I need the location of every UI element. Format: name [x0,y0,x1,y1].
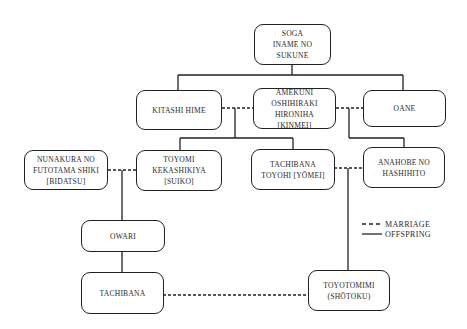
node-soga-iname: SOGA INAME NO SUKUNE [254,24,331,65]
legend-marriage: MARRIAGE [362,219,431,229]
legend-offspring-label: OFFSPRING [385,230,431,239]
node-owari: OWARI [81,220,165,252]
legend: MARRIAGE OFFSPRING [362,219,431,239]
family-tree-diagram: SOGA INAME NO SUKUNE KITASHI HIME AMEKUN… [0,0,467,329]
dashed-line-icon [362,222,382,226]
node-shotoku: TOYOTOMIMI (SHŌTOKU) [308,270,390,311]
node-oane: OANE [363,90,446,127]
node-tachibana: TACHIBANA [81,272,164,314]
node-bidatsu: NUNAKURA NO FUTOTAMA SHIKI [BIDATSU] [24,150,108,190]
node-kitashi-hime: KITASHI HIME [136,90,222,130]
node-suiko: TOYOMI KEKASHIKIYA [SUIKO] [136,150,222,191]
node-kinmei: AMEKUNI OSHIHIRAKI HIRONIHA [KINMEI] [253,88,336,129]
legend-marriage-label: MARRIAGE [385,220,430,229]
node-anahobe: ANAHOBE NO HASHIHITO [363,147,445,188]
legend-offspring: OFFSPRING [362,229,431,239]
node-yomei: TACHIBANA TOYOHI [YŌMEI] [251,149,335,190]
solid-line-icon [362,232,382,236]
